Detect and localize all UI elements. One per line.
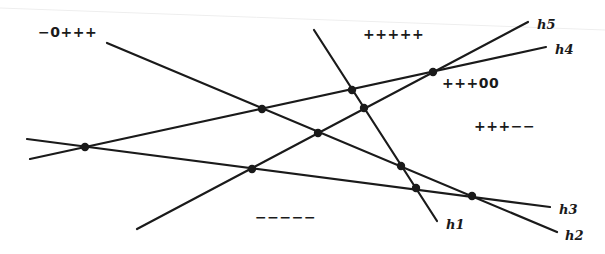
line-h4-segment xyxy=(30,47,546,159)
intersection-vertex xyxy=(348,86,356,94)
region-sign-vector: −0+++ xyxy=(38,24,97,40)
line-label-h3: h3 xyxy=(559,202,578,217)
intersection-vertex xyxy=(412,184,420,192)
intersection-vertex xyxy=(360,104,368,112)
intersection-vertex xyxy=(468,192,476,200)
line-h2-segment xyxy=(107,43,557,232)
line-h2 xyxy=(107,43,557,232)
intersection-vertex xyxy=(248,165,256,173)
region-sign-vector: +++++ xyxy=(363,26,424,42)
intersection-vertex xyxy=(314,129,322,137)
intersection-vertex xyxy=(429,68,437,76)
intersection-vertex xyxy=(258,105,266,113)
region-sign-vector: −−−−− xyxy=(255,209,316,225)
line-label-h5: h5 xyxy=(537,17,556,32)
line-h4 xyxy=(30,47,546,159)
intersection-vertex xyxy=(81,143,89,151)
line-arrangement-diagram: −0+++++++++++00+++−−−−−−− h1h2h3h4h5 xyxy=(0,0,605,254)
intersection-vertex xyxy=(397,162,405,170)
line-label-h2: h2 xyxy=(565,228,584,243)
region-sign-vector: +++00 xyxy=(442,75,499,91)
line-label-h4: h4 xyxy=(555,42,574,57)
region-sign-vector: +++−− xyxy=(474,118,535,134)
line-label-h1: h1 xyxy=(446,217,465,232)
